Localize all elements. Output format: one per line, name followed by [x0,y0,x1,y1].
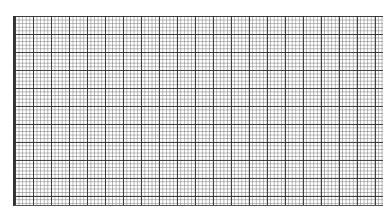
graph-paper-grid [13,16,383,206]
